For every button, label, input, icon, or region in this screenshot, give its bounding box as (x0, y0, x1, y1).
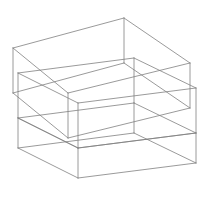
drawing-canvas (0, 0, 203, 200)
isometric-wireframe-figure (0, 0, 203, 200)
